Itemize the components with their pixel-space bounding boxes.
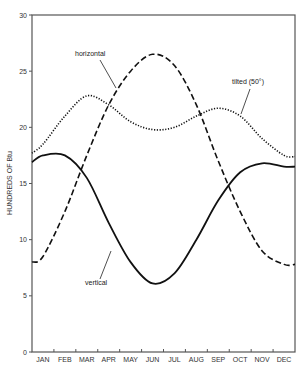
x-axis: JANFEBMARAPRMAYJUNJULAUGSEPOCTNOVDEC bbox=[36, 349, 291, 363]
annotation-tilted: tilted (50°) bbox=[232, 78, 264, 86]
y-tick-label: 5 bbox=[23, 292, 27, 299]
x-tick-label: MAY bbox=[123, 356, 138, 363]
x-tick-label: JAN bbox=[36, 356, 49, 363]
y-tick-label: 10 bbox=[19, 236, 27, 243]
x-tick-label: SEP bbox=[211, 356, 225, 363]
x-tick-label: MAR bbox=[79, 356, 95, 363]
x-tick-label: NOV bbox=[255, 356, 271, 363]
y-axis: 051015202530 bbox=[19, 12, 32, 356]
x-tick-label: FEB bbox=[58, 356, 72, 363]
annotation-horizontal: horizontal bbox=[75, 50, 106, 57]
y-tick-label: 0 bbox=[23, 349, 27, 356]
x-tick-label: DEC bbox=[277, 356, 292, 363]
y-tick-label: 25 bbox=[19, 68, 27, 75]
y-axis-label: HUNDREDS OF Btu bbox=[6, 151, 13, 215]
x-tick-label: JUL bbox=[168, 356, 181, 363]
series-vertical-line bbox=[32, 153, 295, 283]
plot-frame bbox=[32, 15, 295, 352]
x-tick-label: OCT bbox=[233, 356, 249, 363]
y-tick-label: 15 bbox=[19, 180, 27, 187]
y-tick-label: 30 bbox=[19, 12, 27, 19]
x-tick-label: JUN bbox=[146, 356, 160, 363]
y-tick-label: 20 bbox=[19, 124, 27, 131]
leader-tilted bbox=[241, 89, 250, 114]
leader-vertical bbox=[100, 251, 111, 279]
x-tick-label: AUG bbox=[189, 356, 204, 363]
x-tick-label: APR bbox=[102, 356, 116, 363]
leader-horizontal bbox=[100, 60, 116, 88]
annotation-vertical: vertical bbox=[85, 279, 108, 286]
series-tilted-line bbox=[32, 96, 295, 158]
btu-chart: 051015202530 JANFEBMARAPRMAYJUNJULAUGSEP… bbox=[0, 0, 304, 374]
series-lines bbox=[32, 54, 295, 284]
annotations: horizontal tilted (50°) vertical bbox=[75, 50, 264, 286]
